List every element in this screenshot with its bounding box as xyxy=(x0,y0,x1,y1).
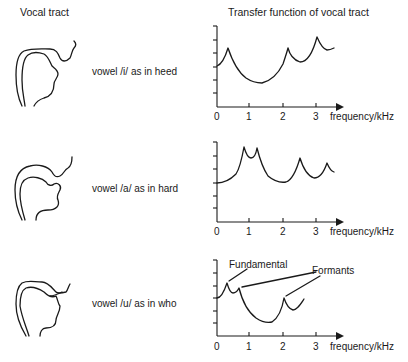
fundamental-annotation: Fundamental xyxy=(229,259,287,271)
x-axis-arrow-icon xyxy=(336,332,344,340)
x-tick-label-0: 0 xyxy=(214,341,220,353)
x-tick-label-1: 1 xyxy=(246,341,252,353)
annotation-leader-lines xyxy=(229,269,320,296)
x-ticks xyxy=(249,332,316,336)
x-tick-label-3: 3 xyxy=(313,341,319,353)
transfer-function-chart-u xyxy=(0,0,408,362)
x-axis-label: frequency/kHz xyxy=(330,341,394,353)
x-tick-label-2: 2 xyxy=(280,341,286,353)
y-ticks xyxy=(213,260,217,323)
formants-annotation: Formants xyxy=(312,265,354,277)
transfer-curve-u xyxy=(217,283,304,322)
